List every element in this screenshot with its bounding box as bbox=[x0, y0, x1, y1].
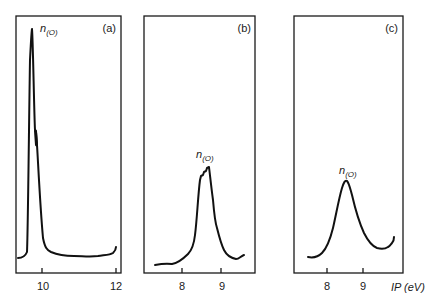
panel-a-label: (a) bbox=[103, 22, 116, 34]
panel-c-frame bbox=[294, 16, 403, 273]
panel-c-peak-label: n(O) bbox=[339, 164, 357, 179]
panel-a: 10 12 (a) n(O) bbox=[16, 16, 122, 292]
panel-a-peak-label: n(O) bbox=[40, 22, 58, 37]
panel-b: 8 9 (b) n(O) bbox=[144, 16, 255, 292]
peak-label-subscript: (O) bbox=[46, 28, 58, 37]
panel-a-tick-label-10: 10 bbox=[37, 280, 49, 292]
panel-c-label: (c) bbox=[385, 22, 398, 34]
panel-c-tick-label-9: 9 bbox=[360, 280, 366, 292]
panel-c-spectrum-curve bbox=[308, 181, 394, 258]
panel-c-tick-label-8: 8 bbox=[324, 280, 330, 292]
panel-c: 8 9 (c) n(O) IP (eV) bbox=[294, 16, 425, 293]
panel-a-frame bbox=[16, 16, 121, 273]
panel-b-label: (b) bbox=[238, 22, 251, 34]
peak-label-subscript: (O) bbox=[202, 154, 214, 163]
panel-b-spectrum-curve bbox=[155, 167, 244, 265]
photoelectron-spectra-figure: 10 12 (a) n(O) 8 9 (b) n(O) 8 9 (c) n(O)… bbox=[0, 0, 436, 302]
panel-b-tick-label-8: 8 bbox=[179, 280, 185, 292]
panel-a-spectrum-curve bbox=[18, 29, 116, 258]
peak-label-subscript: (O) bbox=[345, 170, 357, 179]
panel-b-tick-label-9: 9 bbox=[219, 280, 225, 292]
x-axis-label: IP (eV) bbox=[391, 281, 425, 293]
panel-a-tick-label-12: 12 bbox=[110, 280, 122, 292]
panel-a-shoulder-mark bbox=[36, 131, 37, 145]
panel-b-peak-label: n(O) bbox=[196, 148, 214, 163]
panel-b-frame bbox=[144, 16, 255, 273]
